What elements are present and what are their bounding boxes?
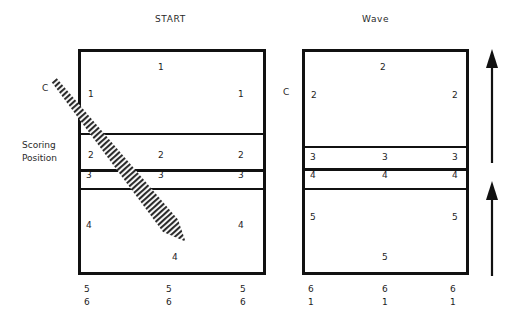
scoring-position-label: Scoring Position — [22, 139, 57, 165]
right-cell-3-right: 3 — [452, 152, 458, 162]
right-cell-3-center: 3 — [382, 152, 388, 162]
right-bottom-3-bottom: 1 — [450, 296, 456, 309]
left-cell-1-back: 1 — [158, 62, 164, 72]
right-cell-5-center: 5 — [382, 252, 388, 262]
left-cell-2-left: 2 — [88, 150, 94, 160]
wave-arrow-lower — [486, 181, 498, 276]
left-cell-4-left: 4 — [86, 220, 92, 230]
right-court-divider-3 — [305, 188, 466, 190]
left-court-divider-1 — [81, 133, 263, 135]
left-court-diagram — [78, 49, 266, 275]
left-cell-3-center: 3 — [158, 170, 164, 180]
left-bottom-2-bottom: 6 — [166, 296, 172, 309]
left-court-title: START — [155, 14, 186, 24]
left-cell-1-right: 1 — [238, 89, 244, 99]
left-bottom-1-bottom: 6 — [84, 296, 90, 309]
right-bottom-2-top: 6 — [382, 283, 388, 296]
left-bottom-1-top: 5 — [84, 283, 90, 296]
right-cell-2-back: 2 — [380, 62, 386, 72]
right-court-divider-1 — [305, 146, 466, 148]
diagram-canvas: START Wave 1 1 1 2 2 2 3 3 3 4 4 4 5 6 5… — [0, 0, 525, 322]
right-bottom-1-bottom: 1 — [308, 296, 314, 309]
left-cell-4-right: 4 — [238, 220, 244, 230]
right-cell-5-right: 5 — [452, 212, 458, 222]
left-cell-2-right: 2 — [238, 150, 244, 160]
coach-label-right: C — [283, 86, 289, 99]
right-cell-4-right: 4 — [452, 170, 458, 180]
left-bottom-3-bottom: 6 — [240, 296, 246, 309]
left-court-divider-3 — [81, 188, 263, 190]
left-cell-4-center: 4 — [172, 252, 178, 262]
right-court-diagram — [302, 49, 469, 275]
right-cell-4-center: 4 — [382, 170, 388, 180]
wave-arrow-upper — [486, 49, 498, 163]
left-cell-1-left: 1 — [88, 89, 94, 99]
left-court-divider-2 — [81, 169, 263, 172]
right-cell-4-left: 4 — [310, 170, 316, 180]
left-cell-3-right: 3 — [238, 170, 244, 180]
right-cell-5-left: 5 — [310, 212, 316, 222]
right-cell-2-left: 2 — [311, 90, 317, 100]
left-cell-2-center: 2 — [158, 150, 164, 160]
right-court-title: Wave — [362, 14, 389, 24]
right-cell-3-left: 3 — [310, 152, 316, 162]
coach-label-left: C — [42, 82, 48, 95]
right-cell-2-right: 2 — [452, 90, 458, 100]
left-bottom-3-top: 5 — [240, 283, 246, 296]
left-cell-3-left: 3 — [86, 170, 92, 180]
right-bottom-1-top: 6 — [308, 283, 314, 296]
left-bottom-2-top: 5 — [166, 283, 172, 296]
right-bottom-2-bottom: 1 — [382, 296, 388, 309]
right-bottom-3-top: 6 — [450, 283, 456, 296]
